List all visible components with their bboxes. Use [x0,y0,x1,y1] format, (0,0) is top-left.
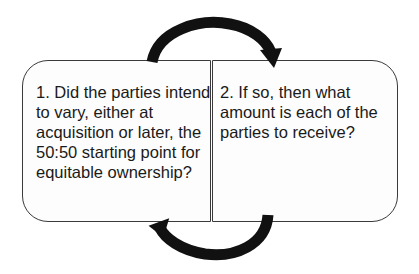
bottom-arrow-icon [149,215,268,255]
cycle-arrows [0,0,419,274]
top-arrow-icon [152,23,282,68]
